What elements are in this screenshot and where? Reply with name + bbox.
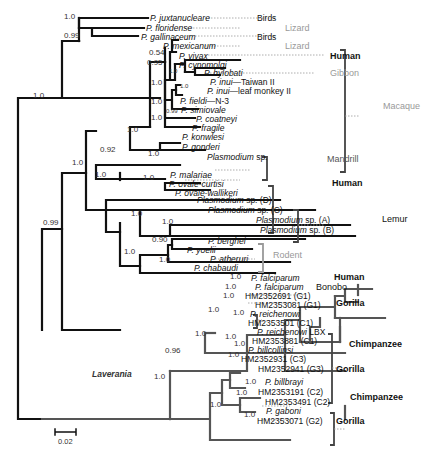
support-value: 0.54 <box>149 48 165 57</box>
support-value: 1.0 <box>233 308 244 317</box>
taxon-label: HM2352931 (C3) <box>241 354 306 364</box>
host-label-lizard: Lizard <box>285 23 310 33</box>
host-label-birds: Birds <box>257 13 276 23</box>
taxon-label: P. mexicanum <box>163 41 216 51</box>
taxon-label: HM2353191 (C2) <box>258 387 323 397</box>
support-value: 1.0 <box>223 291 234 300</box>
clade-label-laverania: Laverania <box>92 369 132 379</box>
support-value: 1.0 <box>195 329 206 338</box>
support-value: 1.0 <box>131 209 142 218</box>
support-value: 1.0 <box>72 158 83 167</box>
host-label-chimpanzee: Chimpanzee <box>350 392 403 402</box>
scale-bar-label: 0.02 <box>58 437 73 446</box>
host-label-rodent: Rodent <box>273 250 302 260</box>
support-value: 0.99 <box>43 218 59 227</box>
host-label-gorilla: Gorilla <box>336 364 365 374</box>
taxon-label: Plasmodium sp. (B) <box>260 225 334 235</box>
support-value: 1.0 <box>244 410 255 419</box>
taxon-label: P. gaboni <box>266 406 301 416</box>
host-label-birds: Birds <box>257 32 276 42</box>
host-label-gorilla: Gorilla <box>336 416 365 426</box>
support-value: 0.92 <box>100 145 116 154</box>
support-value: 1.0 <box>95 170 106 179</box>
host-label-human: Human <box>334 272 365 282</box>
support-value: 1.0 <box>169 68 177 75</box>
support-value: 0.99 <box>64 31 80 40</box>
support-value: 0.95 <box>147 58 163 67</box>
taxon-label: P. juxtanucleare <box>150 13 210 23</box>
taxon-label: Plasmodium sp. <box>207 152 267 162</box>
support-value: 1.0 <box>162 217 173 226</box>
support-value: 1.0 <box>236 388 247 397</box>
taxon-label: HM2352941 (G3) <box>258 364 324 374</box>
host-label-bonobo: Bonobo <box>316 282 347 292</box>
taxon-label: HM2353071 (G2) <box>257 416 323 426</box>
support-value: 1.0 <box>228 350 239 359</box>
support-value: 1.0 <box>230 272 241 281</box>
support-value: 1.0 <box>180 83 188 90</box>
support-value: 0.90 <box>152 235 168 244</box>
taxon-label: Plasmodium sp. (D) <box>197 195 272 205</box>
support-value: 1.0 <box>151 113 162 122</box>
support-value: 1.0 <box>33 91 44 100</box>
host-label-human: Human <box>332 178 363 188</box>
taxon-label: Plasmodium sp. (C) <box>208 205 283 215</box>
support-value: 1.0 <box>151 78 162 87</box>
host-label-macaque: Macaque <box>383 101 420 111</box>
support-value: 1.0 <box>143 173 154 182</box>
support-value: 1.0 <box>124 247 135 256</box>
host-label-human: Human <box>330 51 361 61</box>
taxon-label: P. billbrayi <box>265 377 303 387</box>
taxon-label: P. inui—leaf monkey II <box>207 86 291 96</box>
support-value: 1.0 <box>234 339 245 348</box>
host-label-gorilla: Gorilla <box>336 298 365 308</box>
support-value: 1.0 <box>225 282 236 291</box>
support-value: 1.0 <box>127 125 138 134</box>
taxon-label: P. gonderi <box>182 142 220 152</box>
support-value: 1.0 <box>148 149 159 158</box>
host-label-gibbon: Gibbon <box>330 68 359 78</box>
support-value: 1.0 <box>159 255 170 264</box>
support-value: 1.0 <box>245 377 256 386</box>
host-label-chimpanzee: Chimpanzee <box>349 339 402 349</box>
support-value: 0.99 <box>166 108 178 115</box>
support-value: 1.0 <box>64 12 75 21</box>
support-value: 0.96 <box>165 346 181 355</box>
support-value: 1.0 <box>210 400 221 409</box>
taxon-label: P. konwlesi <box>182 132 224 142</box>
support-value: 1.0 <box>151 97 162 106</box>
host-label-lemur: Lemur <box>382 214 408 224</box>
host-label-lizard: Lizard <box>285 41 310 51</box>
host-label-mandrill: Mandrill <box>327 154 359 164</box>
taxon-label: Plasmodium sp. (A) <box>256 215 330 225</box>
support-value: 1.0 <box>154 372 165 381</box>
support-value: 1.0 <box>208 305 219 314</box>
